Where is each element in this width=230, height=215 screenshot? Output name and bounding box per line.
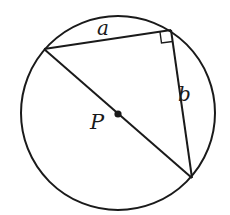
label-side-b: b — [178, 84, 191, 104]
center-point-p — [114, 110, 121, 117]
circle-triangle-diagram: a b P — [0, 0, 230, 215]
diagram-canvas — [0, 0, 230, 215]
label-side-a: a — [97, 18, 109, 38]
label-center-p: P — [90, 112, 104, 133]
